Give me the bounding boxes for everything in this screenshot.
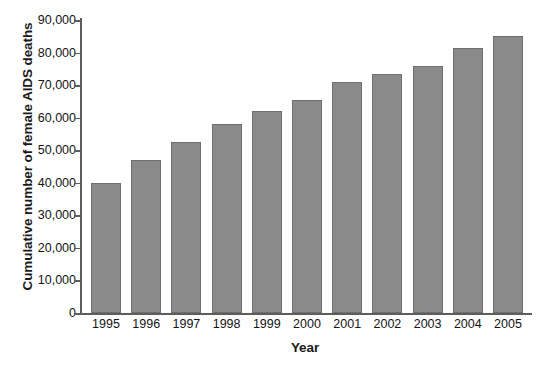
x-axis-tick-label: 1995 [83, 316, 129, 332]
x-axis-tick-label: 2000 [284, 316, 330, 332]
y-axis-tick-label: 90,000 [22, 14, 76, 26]
x-axis-tick-label: 2004 [445, 316, 491, 332]
x-axis-title: Year [80, 340, 530, 355]
x-axis-tick-label: 1998 [204, 316, 250, 332]
y-axis-tick-mark [74, 53, 80, 55]
x-axis-tick-labels: 1995199619971998199920002001200220032004… [80, 316, 530, 336]
y-axis-tick-mark [74, 183, 80, 185]
bar [413, 66, 443, 313]
y-axis-tick-mark [74, 118, 80, 120]
bar [493, 36, 523, 313]
y-axis-tick-mark [74, 150, 80, 152]
x-axis-tick-label: 1999 [244, 316, 290, 332]
y-axis-tick-label: 30,000 [22, 209, 76, 221]
y-axis-tick-mark [74, 215, 80, 217]
x-axis-tick-label: 1997 [163, 316, 209, 332]
y-axis-tick-labels: 010,00020,00030,00040,00050,00060,00070,… [22, 0, 76, 367]
x-axis-tick-label: 2005 [485, 316, 531, 332]
y-axis-tick-label: 20,000 [22, 242, 76, 254]
bar [372, 74, 402, 313]
plot-area [80, 20, 530, 313]
y-axis-tick-label: 40,000 [22, 177, 76, 189]
bar-chart: Cumulative number of female AIDS deaths … [0, 0, 536, 367]
bar [252, 111, 282, 313]
y-axis-tick-label: 60,000 [22, 112, 76, 124]
y-axis-tick-mark [74, 280, 80, 282]
x-axis-tick-label: 2002 [364, 316, 410, 332]
y-axis-tick-mark [74, 85, 80, 87]
y-axis-tick-mark [74, 248, 80, 250]
y-axis-tick-label: 80,000 [22, 47, 76, 59]
bar [131, 160, 161, 313]
bar [212, 124, 242, 313]
y-axis-tick-mark [74, 313, 80, 315]
x-axis-line [80, 313, 532, 315]
x-axis-tick-label: 2001 [324, 316, 370, 332]
y-axis-tick-label: 70,000 [22, 79, 76, 91]
y-axis-tick-label: 0 [22, 307, 76, 319]
x-axis-tick-label: 2003 [405, 316, 451, 332]
bar [332, 82, 362, 313]
x-axis-tick-label: 1996 [123, 316, 169, 332]
y-axis-tick-label: 50,000 [22, 144, 76, 156]
y-axis-tick-label: 10,000 [22, 274, 76, 286]
bar [91, 183, 121, 313]
bar [171, 142, 201, 313]
bar-series [80, 20, 530, 313]
bar [453, 48, 483, 313]
bar [292, 100, 322, 313]
y-axis-tick-mark [74, 20, 80, 22]
